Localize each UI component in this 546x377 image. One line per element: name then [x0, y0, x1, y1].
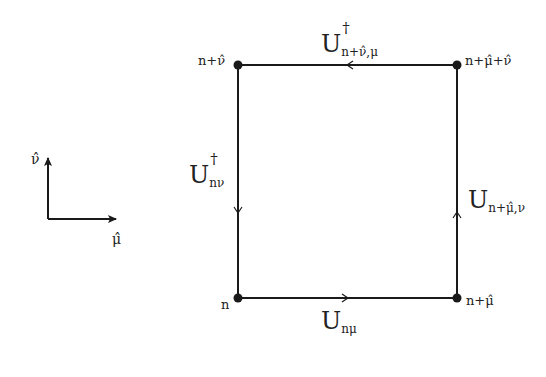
link-left-subscript: nν: [209, 171, 224, 195]
link-left-base: U: [189, 161, 209, 189]
node-dot-n-plus-mu-plus-nu: [453, 61, 462, 70]
link-left-dagger: †: [210, 147, 218, 171]
link-label-left: U†nν: [189, 163, 224, 195]
node-label-n: n: [221, 297, 229, 312]
link-bottom-subscript: nμ: [341, 322, 357, 336]
link-label-top: U†n+ν̂,μ: [321, 32, 378, 64]
axis-label-nu: ν̂: [31, 151, 40, 167]
link-label-right: Un+μ̂,ν: [468, 188, 525, 220]
link-top-base: U: [321, 30, 341, 58]
plaquette-square: [238, 65, 457, 298]
axis-label-mu: μ̂: [112, 231, 121, 247]
link-right-subscript: n+μ̂,ν: [488, 201, 525, 215]
axes-indicator: [48, 158, 116, 219]
link-bottom-base: U: [321, 307, 341, 335]
link-label-bottom: Unμ: [321, 309, 357, 341]
node-dot-n-plus-nu: [234, 61, 243, 70]
node-label-n-plus-mu: n+μ̂: [466, 293, 494, 308]
node-label-n-plus-mu-plus-nu: n+μ̂+ν̂: [465, 53, 512, 68]
node-dot-n-plus-mu: [453, 294, 462, 303]
link-top-dagger: †: [342, 16, 350, 40]
link-top-subscript: n+ν̂,μ: [341, 40, 378, 64]
node-dot-n: [234, 294, 243, 303]
link-right-base: U: [468, 186, 488, 214]
node-label-n-plus-nu: n+ν̂: [198, 53, 225, 68]
